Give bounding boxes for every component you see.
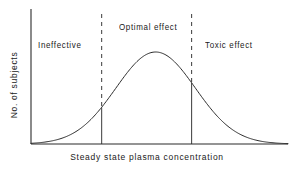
region-label-toxic: Toxic effect (205, 40, 253, 50)
x-axis-title: Steady state plasma concentration (0, 152, 294, 162)
distribution-curve (31, 52, 288, 144)
region-label-ineffective: Ineffective (38, 40, 82, 50)
dose-response-distribution-figure: Ineffective Optimal effect Toxic effect … (0, 0, 294, 170)
y-axis-title: No. of subjects (9, 52, 19, 119)
region-label-optimal: Optimal effect (119, 22, 177, 32)
